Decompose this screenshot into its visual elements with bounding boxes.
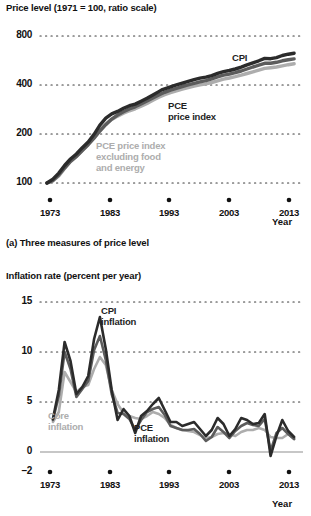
panel-b-svg <box>0 288 311 488</box>
label-core-inflation: Core inflation <box>48 410 83 432</box>
panel-a-xtick-1993: 1993 <box>147 207 191 218</box>
panel-a-xtick-dots <box>48 198 292 203</box>
xtick-dot-1993 <box>167 470 172 475</box>
xtick-dot-2003 <box>227 198 232 203</box>
xtick-dot-1993 <box>167 198 172 203</box>
panel-a-xtick-1973: 1973 <box>28 207 72 218</box>
xtick-dot-2003 <box>227 470 232 475</box>
series-cpi-inflation <box>53 317 294 456</box>
panel-b-title: Inflation rate (percent per year) <box>6 270 141 281</box>
label-core-price-index: PCE price index excluding food and energ… <box>96 140 165 173</box>
xtick-dot-1983 <box>108 198 113 203</box>
panel-b-xtick-1993: 1993 <box>147 479 191 490</box>
panel-b-gridlines <box>40 302 303 402</box>
label-pce-inflation-line2: inflation <box>134 433 169 444</box>
panel-b-ytick-0: 0 <box>0 445 32 456</box>
panel-b-plot: 15 10 5 0 –2 1973 1983 1993 2003 2013 CP… <box>0 288 311 488</box>
panel-b-ytick-10: 10 <box>0 345 32 356</box>
panel-b-xtick-2013: 2013 <box>267 479 311 490</box>
label-core-inflation-line2: inflation <box>48 421 83 432</box>
label-core-line3: and energy <box>96 162 145 173</box>
xtick-dot-2013 <box>287 470 292 475</box>
panel-a-xtick-1983: 1983 <box>88 207 132 218</box>
panel-a-ytick-200: 200 <box>0 127 32 138</box>
panel-a-ytick-400: 400 <box>0 78 32 89</box>
label-pce-line1: PCE <box>168 100 187 111</box>
figure-price-level-and-inflation: Price level (1971 = 100, ratio scale) <box>0 0 311 516</box>
label-pce-inflation: PCE inflation <box>134 422 169 444</box>
panel-a-ytick-100: 100 <box>0 176 32 187</box>
xtick-dot-1973 <box>48 198 53 203</box>
label-pce-inflation-line1: PCE <box>134 422 153 433</box>
panel-b-axis-x-name: Year <box>272 498 292 509</box>
series-core-price-index <box>47 64 294 183</box>
panel-a-svg <box>0 18 311 218</box>
label-core-inflation-line1: Core <box>48 410 69 421</box>
label-cpi-inflation-line1: CPI <box>101 305 116 316</box>
panel-b-xtick-2003: 2003 <box>207 479 251 490</box>
label-cpi-inflation: CPI inflation <box>101 305 136 327</box>
panel-a-ytick-800: 800 <box>0 29 32 40</box>
panel-b-ytick-5: 5 <box>0 395 32 406</box>
xtick-dot-2013 <box>287 198 292 203</box>
label-cpi-inflation-line2: inflation <box>101 316 136 327</box>
series-pce-inflation <box>53 336 294 451</box>
panel-a-title: Price level (1971 = 100, ratio scale) <box>6 2 157 13</box>
panel-b-xtick-1983: 1983 <box>88 479 132 490</box>
panel-b-xtick-1973: 1973 <box>28 479 72 490</box>
xtick-dot-1973 <box>48 470 53 475</box>
panel-a-caption: (a) Three measures of price level <box>6 237 149 248</box>
panel-b-ytick-15: 15 <box>0 295 32 306</box>
panel-a-axis-x-name: Year <box>272 216 292 227</box>
label-core-line1: PCE price index <box>96 140 165 151</box>
label-pce-price-index: PCE price index <box>168 100 216 122</box>
panel-b-ytick-neg2: –2 <box>0 465 32 476</box>
xtick-dot-1983 <box>108 470 113 475</box>
label-core-line2: excluding food <box>96 151 161 162</box>
panel-a-plot: 800 400 200 100 1973 1983 1993 2003 2013… <box>0 18 311 218</box>
panel-a-xtick-2003: 2003 <box>207 207 251 218</box>
label-cpi: CPI <box>232 52 247 63</box>
label-pce-line2: price index <box>168 111 216 122</box>
panel-b-xtick-dots <box>48 470 292 475</box>
